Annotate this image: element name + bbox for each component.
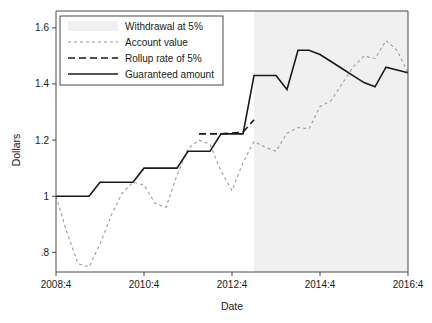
legend-swatch-withdrawal bbox=[68, 21, 118, 31]
y-tick-label: 1.6 bbox=[35, 22, 49, 33]
chart-legend: Withdrawal at 5%Account valueRollup rate… bbox=[60, 16, 223, 85]
chart-svg: 2008:42010:42012:42014:42016:4 1.61.41.2… bbox=[0, 0, 432, 323]
legend-label-0: Withdrawal at 5% bbox=[125, 21, 203, 32]
x-tick-label: 2012:4 bbox=[217, 279, 248, 290]
x-tick-label: 2010:4 bbox=[129, 279, 160, 290]
chart-container: 2008:42010:42012:42014:42016:4 1.61.41.2… bbox=[0, 0, 432, 323]
x-axis-tick-labels: 2008:42010:42012:42014:42016:4 bbox=[41, 279, 424, 290]
x-tick-label: 2016:4 bbox=[393, 279, 424, 290]
y-tick-label: .8 bbox=[41, 247, 50, 258]
y-axis-tick-labels: 1.61.41.21.8 bbox=[35, 22, 49, 258]
legend-label-1: Account value bbox=[125, 37, 188, 48]
y-tick-label: 1.4 bbox=[35, 78, 49, 89]
x-tick-label: 2008:4 bbox=[41, 279, 72, 290]
shaded-rect bbox=[254, 11, 408, 272]
y-axis-title: Dollars bbox=[10, 134, 22, 167]
x-tick-label: 2014:4 bbox=[305, 279, 336, 290]
legend-label-3: Guaranteed amount bbox=[125, 69, 214, 80]
x-axis-title: Date bbox=[221, 300, 243, 312]
legend-label-2: Rollup rate of 5% bbox=[125, 53, 202, 64]
y-axis-ticks bbox=[52, 28, 56, 253]
withdrawal-shaded-region bbox=[254, 11, 408, 272]
y-tick-label: 1.2 bbox=[35, 135, 49, 146]
x-axis-ticks bbox=[56, 272, 408, 276]
y-tick-label: 1 bbox=[43, 191, 49, 202]
